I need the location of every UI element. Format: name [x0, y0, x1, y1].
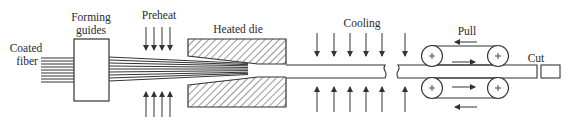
cooling-up-arrows — [317, 87, 405, 112]
forming-guides-box — [74, 39, 109, 101]
label-forming-guides-line2: guides — [72, 24, 110, 36]
label-pull: Pull — [455, 25, 479, 37]
label-coated-fiber-line1: Coated — [8, 42, 44, 54]
heated-die-upper — [188, 39, 286, 64]
label-cooling: Cooling — [340, 17, 384, 29]
label-heated-die: Heated die — [210, 23, 266, 35]
label-cut: Cut — [525, 52, 547, 64]
label-coated-fiber-line2: fiber — [12, 55, 42, 67]
label-forming-guides-line1: Forming — [70, 11, 112, 23]
preheat-down-arrows — [146, 27, 170, 50]
preheat-up-arrows — [146, 92, 170, 117]
coated-fiber-strands — [41, 58, 74, 82]
cut-piece — [541, 65, 560, 78]
heated-die-lower — [188, 77, 286, 107]
label-preheat: Preheat — [138, 9, 180, 21]
cooling-down-arrows — [317, 33, 405, 56]
